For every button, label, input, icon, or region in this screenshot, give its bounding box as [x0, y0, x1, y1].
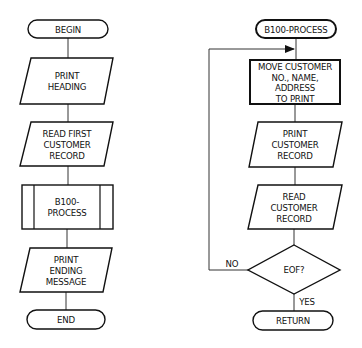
end-terminal: END	[27, 310, 105, 329]
read-record-io: READ CUSTOMER RECORD	[248, 185, 342, 229]
move-line-3: ADDRESS	[275, 83, 315, 93]
begin-terminal: BEGIN	[28, 20, 108, 38]
read-record-line-3: RECORD	[276, 214, 312, 224]
read-record-line-2: CUSTOMER	[271, 203, 318, 213]
print-ending-line-2: ENDING	[50, 266, 83, 276]
read-first-line-2: CUSTOMER	[44, 140, 91, 150]
process-start-terminal: B100-PROCESS	[256, 20, 336, 38]
process-call-box: B100- PROCESS	[22, 185, 113, 229]
move-line-2: NO., NAME,	[272, 73, 319, 83]
move-line-1: MOVE CUSTOMER	[258, 62, 332, 72]
print-heading-line-1: PRINT	[55, 71, 80, 81]
print-heading-io: PRINT HEADING	[20, 58, 113, 104]
read-first-line-3: RECORD	[49, 151, 85, 161]
print-record-line-3: RECORD	[277, 151, 313, 161]
read-first-line-1: READ FIRST	[43, 129, 93, 139]
move-customer-process: MOVE CUSTOMER NO., NAME, ADDRESS TO PRIN…	[250, 60, 340, 104]
process-call-line-1: B100-	[55, 197, 79, 207]
print-ending-io: PRINT ENDING MESSAGE	[20, 248, 112, 292]
yes-branch-label: YES	[298, 297, 315, 307]
eof-decision: EOF?	[248, 245, 340, 294]
flowchart-canvas: BEGIN PRINT HEADING READ FIRST CUSTOMER …	[0, 0, 362, 348]
no-branch-label: NO	[226, 259, 239, 269]
end-label: END	[57, 315, 75, 325]
print-ending-line-1: PRINT	[54, 255, 79, 265]
process-call-line-2: PROCESS	[48, 208, 87, 218]
print-ending-line-3: MESSAGE	[46, 277, 86, 287]
print-record-line-2: CUSTOMER	[272, 140, 319, 150]
print-record-line-1: PRINT	[283, 129, 308, 139]
print-record-io: PRINT CUSTOMER RECORD	[249, 122, 342, 167]
return-terminal: RETURN	[253, 311, 333, 330]
read-first-record-io: READ FIRST CUSTOMER RECORD	[20, 122, 113, 166]
move-line-4: TO PRINT	[275, 94, 315, 104]
eof-label: EOF?	[284, 265, 305, 275]
return-label: RETURN	[276, 316, 310, 326]
begin-label: BEGIN	[55, 25, 81, 35]
process-start-label: B100-PROCESS	[264, 25, 327, 35]
read-record-line-1: READ	[282, 192, 306, 202]
print-heading-line-2: HEADING	[48, 82, 87, 92]
